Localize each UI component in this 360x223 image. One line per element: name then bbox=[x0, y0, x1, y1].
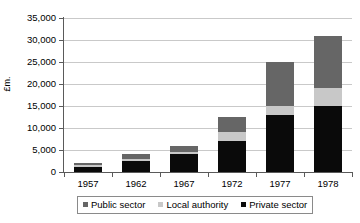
y-tick-mark bbox=[59, 150, 64, 151]
y-tick-mark bbox=[59, 62, 64, 63]
bar-segment bbox=[266, 115, 294, 172]
x-tick-mark bbox=[304, 172, 305, 177]
x-tick-mark bbox=[256, 172, 257, 177]
bar-segment bbox=[74, 167, 102, 172]
legend-swatch-icon bbox=[241, 202, 246, 207]
y-tick-mark bbox=[59, 128, 64, 129]
legend-label: Public sector bbox=[91, 200, 145, 210]
bar-segment bbox=[314, 88, 342, 106]
bar-segment bbox=[314, 106, 342, 172]
legend-item: Local authority bbox=[158, 200, 228, 210]
y-tick-mark bbox=[59, 84, 64, 85]
chart-legend: Public sectorLocal authorityPrivate sect… bbox=[77, 196, 313, 214]
legend-item: Public sector bbox=[83, 200, 145, 210]
grid-line bbox=[64, 62, 352, 63]
grid-line bbox=[64, 84, 352, 85]
bar-segment bbox=[218, 141, 246, 172]
x-tick-label: 1978 bbox=[298, 179, 358, 189]
y-tick-label: 15,000 bbox=[4, 101, 56, 111]
x-tick-mark bbox=[160, 172, 161, 177]
x-tick-mark bbox=[112, 172, 113, 177]
y-tick-label: 35,000 bbox=[4, 13, 56, 23]
plot-area bbox=[64, 18, 352, 172]
bar-group bbox=[218, 117, 246, 172]
y-tick-label: 30,000 bbox=[4, 35, 56, 45]
bar-segment bbox=[218, 132, 246, 141]
bar-group bbox=[170, 146, 198, 172]
bar-segment bbox=[266, 62, 294, 106]
y-tick-mark bbox=[59, 106, 64, 107]
y-tick-label: 25,000 bbox=[4, 57, 56, 67]
y-tick-label: 5,000 bbox=[4, 145, 56, 155]
bar-group bbox=[266, 62, 294, 172]
grid-line bbox=[64, 40, 352, 41]
x-tick-mark bbox=[352, 172, 353, 177]
y-tick-mark bbox=[59, 18, 64, 19]
y-tick-mark bbox=[59, 40, 64, 41]
x-tick-mark bbox=[64, 172, 65, 177]
bar-segment bbox=[218, 117, 246, 132]
grid-line bbox=[64, 150, 352, 151]
grid-line bbox=[64, 128, 352, 129]
bar-group bbox=[314, 36, 342, 172]
bar-segment bbox=[266, 106, 294, 115]
legend-label: Private sector bbox=[249, 200, 307, 210]
bar-segment bbox=[314, 36, 342, 89]
bar-group bbox=[122, 154, 150, 172]
legend-swatch-icon bbox=[158, 202, 163, 207]
y-tick-label: 10,000 bbox=[4, 123, 56, 133]
legend-swatch-icon bbox=[83, 202, 88, 207]
bar-group bbox=[74, 163, 102, 172]
legend-item: Private sector bbox=[241, 200, 307, 210]
y-tick-label: 0 bbox=[4, 167, 56, 177]
stacked-bar-chart: £m. 05,00010,00015,00020,00025,00030,000… bbox=[0, 0, 360, 223]
y-tick-label: 20,000 bbox=[4, 79, 56, 89]
grid-line bbox=[64, 18, 352, 19]
bar-segment bbox=[170, 146, 198, 153]
legend-label: Local authority bbox=[166, 200, 228, 210]
x-tick-mark bbox=[208, 172, 209, 177]
grid-line bbox=[64, 106, 352, 107]
bar-segment bbox=[170, 154, 198, 172]
bar-segment bbox=[122, 161, 150, 172]
